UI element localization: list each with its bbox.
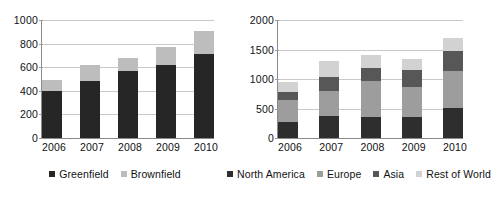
bars-right [278, 20, 463, 138]
bar-segment-2009-greenfield [156, 65, 176, 138]
legend-swatch-icon [121, 171, 127, 177]
x-tick-label-2009: 2009 [402, 141, 422, 153]
chart-right: 0500100015002000 20062007200820092010 No… [230, 0, 496, 200]
bar-segment-2008-brownfield [118, 58, 138, 72]
x-tick-label-2010: 2010 [194, 141, 214, 153]
bar-segment-2010-rest-of-world [443, 38, 463, 51]
bar-segment-2008-greenfield [118, 71, 138, 138]
x-axis-labels-right: 20062007200820092010 [278, 141, 463, 153]
bar-column-2007 [319, 20, 339, 138]
bar-column-2006 [42, 20, 62, 138]
bar-segment-2008-rest-of-world [361, 55, 381, 68]
bar-segment-2007-brownfield [80, 65, 100, 81]
y-tick-label-800: 800 [20, 38, 38, 50]
y-tick-label-600: 600 [20, 61, 38, 73]
bar-segment-2009-europe [402, 87, 422, 117]
bar-segment-2009-asia [402, 70, 422, 87]
x-tick-label-2009: 2009 [156, 141, 176, 153]
legend-left: GreenfieldBrownfield [0, 168, 230, 180]
legend-item-greenfield[interactable]: Greenfield [49, 168, 108, 180]
legend-swatch-icon [373, 171, 379, 177]
x-tick-label-2007: 2007 [319, 141, 339, 153]
bar-column-2010 [194, 20, 214, 138]
y-tick-label-200: 200 [20, 108, 38, 120]
y-tick-label-500: 500 [256, 103, 274, 115]
y-axis-labels-left: 02004006008001000 [0, 20, 38, 138]
bar-segment-2006-asia [278, 92, 298, 100]
legend-label: Rest of World [426, 168, 491, 180]
gridline-0 [42, 138, 214, 139]
bars-left [42, 20, 214, 138]
bar-segment-2009-north-america [402, 117, 422, 138]
gridline-0 [278, 138, 463, 139]
bar-segment-2009-rest-of-world [402, 59, 422, 70]
bar-segment-2010-north-america [443, 108, 463, 138]
legend-label: Europe [327, 168, 361, 180]
y-tick-label-400: 400 [20, 85, 38, 97]
bar-column-2006 [278, 20, 298, 138]
bar-segment-2006-brownfield [42, 80, 62, 91]
legend-swatch-icon [317, 171, 323, 177]
bar-column-2007 [80, 20, 100, 138]
bar-segment-2006-rest-of-world [278, 82, 298, 92]
x-tick-label-2006: 2006 [278, 141, 298, 153]
x-tick-label-2006: 2006 [42, 141, 62, 153]
bar-segment-2006-europe [278, 100, 298, 122]
bar-segment-2009-brownfield [156, 47, 176, 65]
bar-segment-2010-brownfield [194, 31, 214, 53]
bar-column-2008 [361, 20, 381, 138]
x-tick-label-2008: 2008 [118, 141, 138, 153]
bar-column-2010 [443, 20, 463, 138]
bar-segment-2007-europe [319, 91, 339, 116]
y-tick-label-1500: 1500 [250, 44, 274, 56]
y-axis-labels-right: 0500100015002000 [230, 20, 274, 138]
legend-item-brownfield[interactable]: Brownfield [121, 168, 181, 180]
y-tick-label-0: 0 [268, 132, 274, 144]
y-tick-mark [39, 138, 43, 139]
legend-right: North AmericaEuropeAsiaRest of World [222, 168, 496, 180]
legend-swatch-icon [416, 171, 422, 177]
bar-segment-2007-greenfield [80, 81, 100, 138]
bar-segment-2008-north-america [361, 117, 381, 138]
bar-segment-2007-rest-of-world [319, 61, 339, 77]
bar-segment-2007-asia [319, 77, 339, 91]
bar-segment-2010-greenfield [194, 54, 214, 138]
legend-item-europe[interactable]: Europe [317, 168, 361, 180]
bar-column-2009 [402, 20, 422, 138]
y-tick-label-1000: 1000 [14, 14, 38, 26]
bar-segment-2006-north-america [278, 122, 298, 138]
x-tick-label-2010: 2010 [443, 141, 463, 153]
y-tick-label-2000: 2000 [250, 14, 274, 26]
bar-segment-2010-asia [443, 51, 463, 71]
bar-segment-2007-north-america [319, 116, 339, 138]
legend-label: North America [237, 168, 305, 180]
chart-left: 02004006008001000 20062007200820092010 G… [0, 0, 230, 200]
y-tick-label-1000: 1000 [250, 73, 274, 85]
bar-column-2009 [156, 20, 176, 138]
y-tick-mark [275, 138, 279, 139]
bar-segment-2008-europe [361, 81, 381, 116]
legend-item-rest-of-world[interactable]: Rest of World [416, 168, 491, 180]
y-tick-label-0: 0 [32, 132, 38, 144]
bar-segment-2006-greenfield [42, 91, 62, 138]
x-axis-labels-left: 20062007200820092010 [42, 141, 214, 153]
legend-item-north-america[interactable]: North America [227, 168, 305, 180]
legend-label: Asia [383, 168, 404, 180]
legend-label: Brownfield [131, 168, 181, 180]
bar-segment-2010-europe [443, 71, 463, 108]
legend-swatch-icon [49, 171, 55, 177]
legend-item-asia[interactable]: Asia [373, 168, 404, 180]
x-tick-label-2007: 2007 [80, 141, 100, 153]
bar-segment-2008-asia [361, 68, 381, 82]
legend-swatch-icon [227, 171, 233, 177]
x-tick-label-2008: 2008 [361, 141, 381, 153]
legend-label: Greenfield [59, 168, 108, 180]
chart-page: 02004006008001000 20062007200820092010 G… [0, 0, 496, 200]
bar-column-2008 [118, 20, 138, 138]
